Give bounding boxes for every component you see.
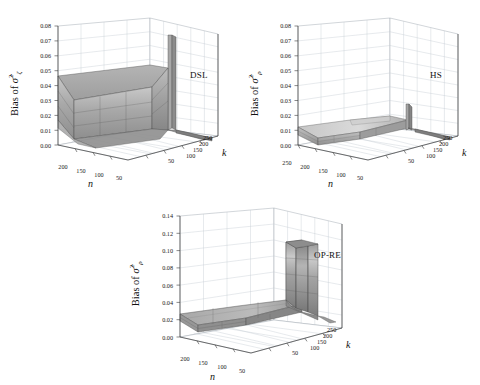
panel-op-re-ntick-3: 50 bbox=[231, 367, 253, 374]
panel-hs-xaxis-label: n bbox=[328, 178, 333, 189]
panel-op-re-title: OP-RE bbox=[314, 250, 341, 260]
panel-hs-ytick-2: 0.02 bbox=[259, 112, 291, 119]
panel-dsl-ntick-2: 100 bbox=[88, 171, 110, 178]
panel-dsl-ytick-8: 0.08 bbox=[19, 22, 51, 29]
panel-dsl-ytick-7: 0.07 bbox=[19, 37, 51, 44]
panel-dsl-ntick-3: 50 bbox=[108, 174, 130, 181]
panel-op-re-plot bbox=[118, 196, 366, 385]
panel-op-re-ytick-7: 0.14 bbox=[140, 212, 173, 219]
panel-hs-zaxis-label: k bbox=[462, 147, 466, 158]
panel-dsl-ytick-2: 0.02 bbox=[19, 112, 51, 119]
panel-hs-ytick-4: 0.04 bbox=[259, 82, 291, 89]
figure-three-surface-plots: Bias of σ̂2ζ bbox=[0, 0, 480, 385]
panel-op-re-ntick-2: 100 bbox=[211, 363, 233, 370]
panel-op-re-svg bbox=[118, 196, 366, 385]
panel-hs-ytick-5: 0.05 bbox=[259, 67, 291, 74]
panel-dsl-zaxis-label: k bbox=[222, 147, 226, 158]
panel-hs-ytick-3: 0.03 bbox=[259, 97, 291, 104]
panel-op-re: Bias of σ̂2ρ bbox=[118, 196, 366, 385]
panel-dsl-ktick-4: 50 bbox=[168, 157, 190, 164]
panel-hs-ytick-1: 0.01 bbox=[259, 127, 291, 134]
panel-hs-ytick-0: 0.00 bbox=[259, 142, 291, 149]
panel-hs-ytick-6: 0.06 bbox=[259, 52, 291, 59]
panel-dsl-ytick-6: 0.06 bbox=[19, 52, 51, 59]
panel-hs-ytick-7: 0.07 bbox=[259, 37, 291, 44]
panel-dsl-ytick-4: 0.04 bbox=[19, 82, 51, 89]
panel-op-re-ytick-5: 0.10 bbox=[140, 247, 173, 254]
panel-dsl-ytick-5: 0.05 bbox=[19, 67, 51, 74]
panel-dsl-xaxis-label: n bbox=[88, 178, 93, 189]
panel-dsl-ytick-0: 0.00 bbox=[19, 142, 51, 149]
panel-op-re-ytick-2: 0.04 bbox=[140, 299, 173, 306]
panel-hs-ntick-4: 50 bbox=[349, 174, 371, 181]
panel-dsl-ytick-1: 0.01 bbox=[19, 127, 51, 134]
panel-hs-ktick-4: 50 bbox=[408, 157, 430, 164]
panel-op-re-xaxis-label: n bbox=[210, 371, 215, 382]
panel-hs-title: HS bbox=[430, 70, 442, 80]
panel-dsl-title: DSL bbox=[190, 70, 208, 80]
panel-op-re-ktick-4: 50 bbox=[292, 349, 314, 356]
panel-hs-ytick-8: 0.08 bbox=[259, 22, 291, 29]
panel-dsl: Bias of σ̂2ζ bbox=[0, 8, 240, 193]
panel-op-re-ytick-3: 0.06 bbox=[140, 282, 173, 289]
panel-op-re-ytick-4: 0.08 bbox=[140, 264, 173, 271]
panel-op-re-zaxis-label: k bbox=[346, 339, 350, 350]
panel-hs: Bias of σ̂2ρ bbox=[240, 8, 480, 193]
panel-op-re-ytick-6: 0.12 bbox=[140, 230, 173, 237]
panel-dsl-ytick-3: 0.03 bbox=[19, 97, 51, 104]
panel-op-re-ytick-1: 0.02 bbox=[140, 316, 173, 323]
panel-op-re-ytick-0: 0.00 bbox=[140, 334, 173, 341]
